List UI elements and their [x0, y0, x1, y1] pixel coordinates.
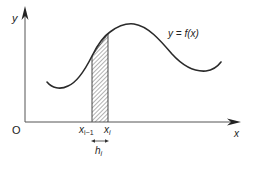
h-i-sub: i — [101, 150, 103, 157]
curve-label: y = f(x) — [167, 28, 199, 39]
arrowhead-left-icon — [91, 139, 95, 142]
x-axis — [25, 119, 241, 126]
x-i-minus-1-sub: i−1 — [84, 129, 94, 136]
origin-label: O — [12, 124, 21, 136]
x-i-sub: i — [109, 129, 111, 136]
x-i-label: xi — [103, 124, 111, 136]
h-i-label: hi — [95, 145, 103, 157]
width-double-arrow — [91, 139, 109, 142]
function-strip-diagram: y x O y = f(x) xi−1 xi hi — [0, 0, 254, 169]
arrowhead-right-icon — [105, 139, 109, 142]
y-axis — [22, 6, 29, 122]
x-i-minus-1-label: xi−1 — [78, 124, 94, 136]
y-axis-label: y — [11, 12, 19, 24]
x-axis-label: x — [233, 128, 240, 139]
